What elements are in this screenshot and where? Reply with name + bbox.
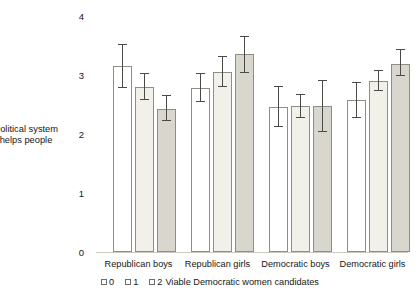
error-bar-cap-bottom (274, 126, 283, 127)
error-bar-cap-top (274, 86, 283, 87)
error-bar (200, 74, 201, 103)
error-bar-cap-top (218, 56, 227, 57)
bar-rect (369, 81, 388, 252)
bar-rect (191, 88, 210, 252)
bar-rect (135, 87, 154, 252)
error-bar-cap-top (140, 73, 149, 74)
bar-democratic-boys-series-2 (313, 14, 332, 252)
legend-swatch-1-icon (125, 279, 131, 285)
error-bar-cap-bottom (218, 86, 227, 87)
bar-group-3 (347, 14, 410, 252)
error-bar-cap-bottom (396, 75, 405, 76)
bar-republican-boys-series-0 (113, 14, 132, 252)
bar-chart: 4 3 2 1 0 Political system helps people … (0, 0, 417, 301)
error-bar-cap-bottom (162, 120, 171, 121)
bar-republican-boys-series-2 (157, 14, 176, 252)
error-bar-cap-bottom (240, 72, 249, 73)
error-bar-cap-top (118, 44, 127, 45)
bar-rect (269, 107, 288, 252)
bar-republican-girls-series-0 (191, 14, 210, 252)
error-bar-cap-bottom (196, 101, 205, 102)
bar-rect (157, 109, 176, 252)
y-axis-title-line1: Political system (0, 124, 78, 135)
bar-rect (113, 66, 132, 252)
error-bar (300, 95, 301, 118)
legend-item-0: 0 (101, 277, 125, 287)
bar-rect (391, 64, 410, 252)
y-tick-label-4: 4 (60, 12, 84, 22)
bar-democratic-boys-series-0 (269, 14, 288, 252)
legend-label-1: 1 (133, 277, 138, 287)
error-bar-cap-bottom (296, 117, 305, 118)
bar-democratic-boys-series-1 (291, 14, 310, 252)
error-bar-cap-top (296, 94, 305, 95)
error-bar-cap-bottom (140, 99, 149, 100)
error-bar (400, 50, 401, 77)
bar-group-1 (191, 14, 254, 252)
y-tick-label-1: 1 (60, 189, 84, 199)
plot-area (96, 14, 408, 252)
bar-group-2 (269, 14, 332, 252)
bar-democratic-girls-series-2 (391, 14, 410, 252)
x-axis-baseline (96, 252, 408, 253)
error-bar (222, 57, 223, 87)
legend-label-2: 2 (157, 277, 162, 287)
legend: 0 1 2 Viable Democratic women candidates (101, 277, 319, 287)
legend-item-1: 1 (125, 277, 149, 287)
legend-item-2: 2 (149, 277, 165, 287)
legend-label-0: 0 (109, 277, 114, 287)
error-bar (356, 83, 357, 118)
y-axis-title-line2: helps people (0, 135, 78, 146)
error-bar-cap-top (318, 80, 327, 81)
bar-rect (291, 106, 310, 252)
bar-democratic-girls-series-1 (369, 14, 388, 252)
legend-swatch-2-icon (149, 279, 155, 285)
x-label-group-3: Democratic girls (335, 259, 410, 269)
y-tick-label-3: 3 (60, 71, 84, 81)
legend-swatch-0-icon (101, 279, 107, 285)
error-bar-cap-bottom (374, 90, 383, 91)
bar-rect (235, 54, 254, 252)
bar-republican-boys-series-1 (135, 14, 154, 252)
error-bar-cap-top (162, 95, 171, 96)
y-tick-label-0: 0 (60, 248, 84, 258)
error-bar-cap-top (374, 70, 383, 71)
error-bar-cap-top (352, 82, 361, 83)
bar-republican-girls-series-2 (235, 14, 254, 252)
x-label-group-2: Democratic boys (258, 259, 333, 269)
error-bar-cap-bottom (352, 117, 361, 118)
bar-group-0 (113, 14, 176, 252)
error-bar (322, 81, 323, 132)
error-bar-cap-top (240, 36, 249, 37)
error-bar-cap-top (196, 73, 205, 74)
bar-rect (347, 100, 366, 252)
x-axis-title: Viable Democratic women candidates (165, 277, 319, 287)
error-bar (278, 87, 279, 127)
error-bar (122, 45, 123, 88)
x-label-group-1: Republican girls (180, 259, 255, 269)
bar-democratic-girls-series-0 (347, 14, 366, 252)
error-bar (144, 74, 145, 100)
error-bar (378, 71, 379, 92)
error-bar-cap-bottom (318, 131, 327, 132)
error-bar (244, 37, 245, 73)
bar-republican-girls-series-1 (213, 14, 232, 252)
error-bar (166, 96, 167, 122)
bar-rect (213, 72, 232, 252)
error-bar-cap-bottom (118, 87, 127, 88)
x-label-group-0: Republican boys (101, 259, 176, 269)
error-bar-cap-top (396, 49, 405, 50)
